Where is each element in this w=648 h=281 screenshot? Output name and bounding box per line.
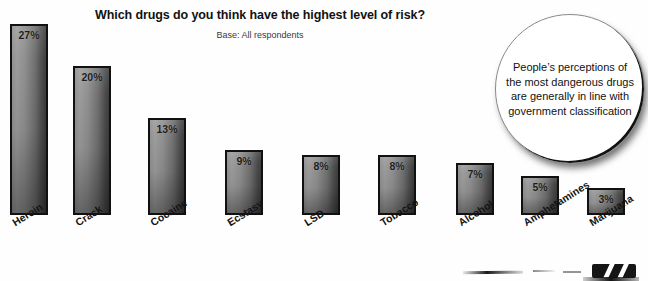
bar-heroin: 27%: [10, 24, 48, 215]
bar-lsd: 8%: [302, 155, 340, 215]
bar-value-label: 8%: [380, 160, 414, 172]
bar-group: 13% Cocaine: [148, 118, 186, 215]
bar-value-label: 20%: [75, 71, 109, 83]
bar-group: 3% Marijuana: [587, 188, 625, 215]
bar-group: 8% LSD: [302, 155, 340, 215]
callout-text: People’s perceptions of the most dangero…: [506, 60, 634, 118]
callout-bubble: People’s perceptions of the most dangero…: [495, 14, 645, 164]
bar-group: 9% Ecstasy: [225, 150, 263, 215]
scan-artifact: [533, 270, 555, 272]
scan-artifact: [592, 264, 636, 278]
chart-page: Which drugs do you think have the highes…: [0, 0, 648, 281]
scan-artifact: [463, 271, 523, 275]
bar-group: 7% Alcohol: [456, 163, 494, 215]
bar-group: 8% Tobacco: [378, 155, 416, 215]
bar-value-label: 9%: [227, 155, 261, 167]
scan-artifact: [563, 271, 581, 273]
bar-value-label: 7%: [458, 168, 492, 180]
bar-group: 27% Heroin: [10, 24, 48, 215]
bar-crack: 20%: [73, 66, 111, 215]
bar-value-label: 27%: [12, 29, 46, 41]
bar-value-label: 5%: [523, 181, 557, 193]
scan-artifact: [583, 277, 639, 281]
bar-value-label: 13%: [150, 123, 184, 135]
bar-group: 20% Crack: [73, 66, 111, 215]
bar-group: 5% Amphetamines: [521, 176, 559, 215]
bar-value-label: 8%: [304, 160, 338, 172]
